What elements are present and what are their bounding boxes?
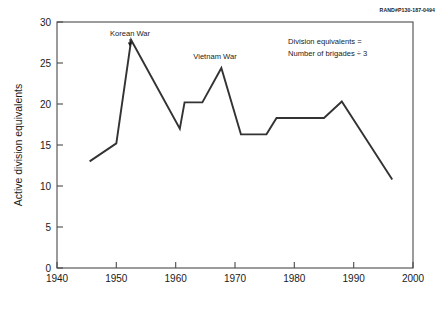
y-tick-labels: 0 5 10 15 20 25 30 [40, 17, 52, 274]
y-tick-label: 10 [40, 181, 52, 192]
note-line: Number of brigades ÷ 3 [288, 49, 367, 58]
x-tick-label: 1960 [165, 273, 188, 284]
y-axis-title: Active division equivalents [12, 84, 24, 207]
x-tick-label: 1990 [343, 273, 366, 284]
annotation-vietnam-war: Vietnam War [193, 52, 237, 61]
chart-page: RAND#P130-187-0494 0 [0, 0, 440, 309]
y-tick-label: 0 [45, 263, 51, 274]
x-tick-label: 2000 [402, 273, 425, 284]
y-tick-label: 30 [40, 17, 52, 28]
note-line: Division equivalents = [288, 37, 362, 46]
x-tick-labels: 1940 1950 1960 1970 1980 1990 2000 [46, 273, 425, 284]
x-tick-label: 1940 [46, 273, 69, 284]
korean-war-label: Korean War [110, 29, 151, 38]
y-tick-label: 15 [40, 140, 52, 151]
line-chart: 0 5 10 15 20 25 30 1940 1950 1960 1970 1… [0, 0, 440, 309]
y-tick-label: 25 [40, 58, 52, 69]
x-tick-label: 1980 [283, 273, 306, 284]
y-tick-label: 20 [40, 99, 52, 110]
x-tick-label: 1970 [224, 273, 247, 284]
x-tick-label: 1950 [105, 273, 128, 284]
y-tick-label: 5 [45, 222, 51, 233]
vietnam-war-label: Vietnam War [193, 52, 237, 61]
